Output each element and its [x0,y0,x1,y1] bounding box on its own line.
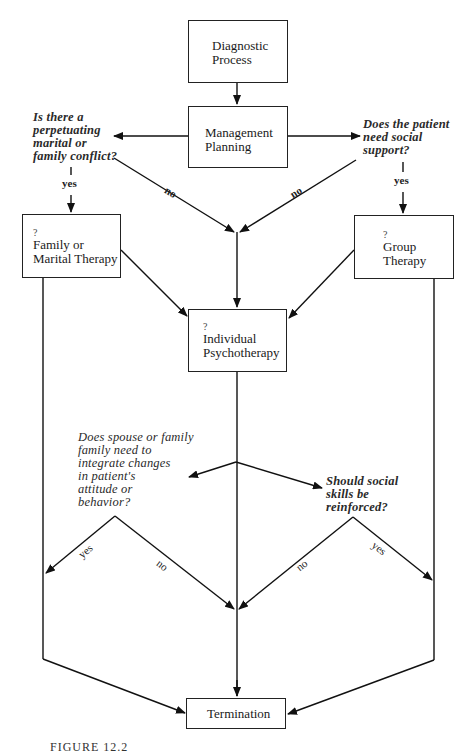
node-label: Individual [203,332,280,346]
node-label: Group [383,240,426,254]
arrow-to-q4 [236,462,322,488]
arrow-q3-no [115,516,234,609]
node-management-planning: Management Planning [188,106,288,168]
edge-label-q1-yes: yes [62,177,77,189]
question-line: support? [363,144,450,157]
node-termination: Termination [186,698,286,729]
question-line: family conflict? [33,150,117,163]
arrow-to-q3 [189,462,236,477]
question-social-skills: Should social skills be reinforced? [326,475,398,514]
arrow-group-to-termination [288,660,434,714]
node-label: Termination [207,707,270,721]
arrow-group-to-individual [289,250,354,318]
node-label: Management [205,126,273,140]
node-group-therapy: ? Group Therapy [354,215,454,279]
node-label: Psychotherapy [203,346,280,360]
node-label: Diagnostic [212,39,268,53]
edge-label-q2-yes: yes [394,174,409,186]
question-line: reinforced? [326,501,398,514]
node-diagnostic-process: Diagnostic Process [188,20,288,83]
arrow-q3-yes [46,516,115,573]
node-family-marital-therapy: ? Family or Marital Therapy [22,214,121,278]
question-social-support: Does the patient need social support? [363,118,450,157]
question-family-conflict: Is there a perpetuating marital or famil… [33,111,117,163]
node-label: Process [212,53,268,67]
node-individual-psychotherapy: ? Individual Psychotherapy [188,309,287,372]
figure-caption: FIGURE 12.2 [50,740,128,755]
question-line: behavior? [78,496,194,509]
arrow-family-to-termination [43,659,185,713]
node-label: Marital Therapy [33,252,118,266]
arrow-q4-yes [353,517,432,580]
node-label: Planning [205,140,273,154]
arrow-family-to-individual [121,250,187,316]
question-spouse-family-integrate: Does spouse or family family need to int… [78,431,194,509]
node-label: Family or [33,238,118,252]
node-label: Therapy [383,254,426,268]
